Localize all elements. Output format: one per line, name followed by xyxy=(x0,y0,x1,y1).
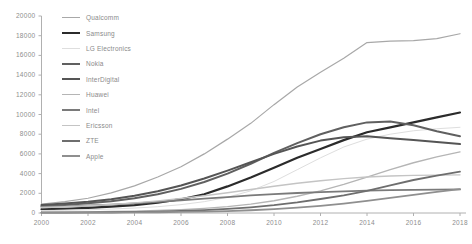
legend-swatch xyxy=(62,155,80,157)
x-axis-tick-label: 2000 xyxy=(26,219,58,226)
y-axis-tick-label: 6000 xyxy=(0,150,36,157)
x-axis-tick-label: 2010 xyxy=(258,219,290,226)
legend-swatch xyxy=(62,63,80,65)
y-axis-tick-label: 14000 xyxy=(0,71,36,78)
legend-item-ericsson[interactable]: Ericsson xyxy=(62,118,131,133)
y-axis-tick-label: 10000 xyxy=(0,111,36,118)
x-axis-tick-label: 2004 xyxy=(119,219,151,226)
legend-label: Qualcomm xyxy=(86,14,119,21)
x-axis-tick-label: 2012 xyxy=(305,219,337,226)
legend-label: Huawei xyxy=(86,91,109,98)
line-chart: 0200040006000800010000120001400016000180… xyxy=(0,0,472,244)
x-axis-tick-label: 2002 xyxy=(72,219,104,226)
legend-item-intel[interactable]: Intel xyxy=(62,102,131,117)
y-axis-tick-label: 20000 xyxy=(0,12,36,19)
legend-label: Apple xyxy=(86,153,104,160)
legend-item-samsung[interactable]: Samsung xyxy=(62,25,131,40)
legend-swatch xyxy=(62,48,80,49)
y-axis-tick-label: 0 xyxy=(0,209,36,216)
legend-item-nokia[interactable]: Nokia xyxy=(62,56,131,71)
legend-swatch xyxy=(62,140,80,142)
y-axis-tick-label: 12000 xyxy=(0,91,36,98)
legend-item-apple[interactable]: Apple xyxy=(62,149,131,164)
legend-item-huawei[interactable]: Huawei xyxy=(62,87,131,102)
legend-item-lg-electronics[interactable]: LG Electronics xyxy=(62,41,131,56)
y-axis-tick-label: 16000 xyxy=(0,51,36,58)
x-axis-tick-label: 2016 xyxy=(398,219,430,226)
legend-swatch xyxy=(62,109,80,111)
legend-swatch xyxy=(62,125,80,126)
legend-label: Nokia xyxy=(86,60,104,67)
legend-label: Samsung xyxy=(86,30,115,37)
y-axis-tick-label: 18000 xyxy=(0,32,36,39)
y-axis-tick-label: 8000 xyxy=(0,130,36,137)
y-axis-tick-label: 2000 xyxy=(0,189,36,196)
x-axis-tick-label: 2008 xyxy=(212,219,244,226)
chart-legend: QualcommSamsungLG ElectronicsNokiaInterD… xyxy=(62,10,131,164)
legend-label: InterDigital xyxy=(86,76,119,83)
legend-item-interdigital[interactable]: InterDigital xyxy=(62,72,131,87)
legend-label: Ericsson xyxy=(86,122,113,129)
legend-item-zte[interactable]: ZTE xyxy=(62,133,131,148)
y-axis-tick-label: 4000 xyxy=(0,170,36,177)
legend-swatch xyxy=(62,32,80,34)
legend-label: LG Electronics xyxy=(86,45,131,52)
legend-swatch xyxy=(62,94,80,95)
legend-swatch xyxy=(62,78,80,80)
x-axis-tick-label: 2014 xyxy=(351,219,383,226)
legend-label: ZTE xyxy=(86,137,99,144)
x-axis-tick-label: 2018 xyxy=(444,219,472,226)
legend-swatch xyxy=(62,17,80,18)
legend-label: Intel xyxy=(86,107,99,114)
x-axis-tick-label: 2006 xyxy=(165,219,197,226)
legend-item-qualcomm[interactable]: Qualcomm xyxy=(62,10,131,25)
